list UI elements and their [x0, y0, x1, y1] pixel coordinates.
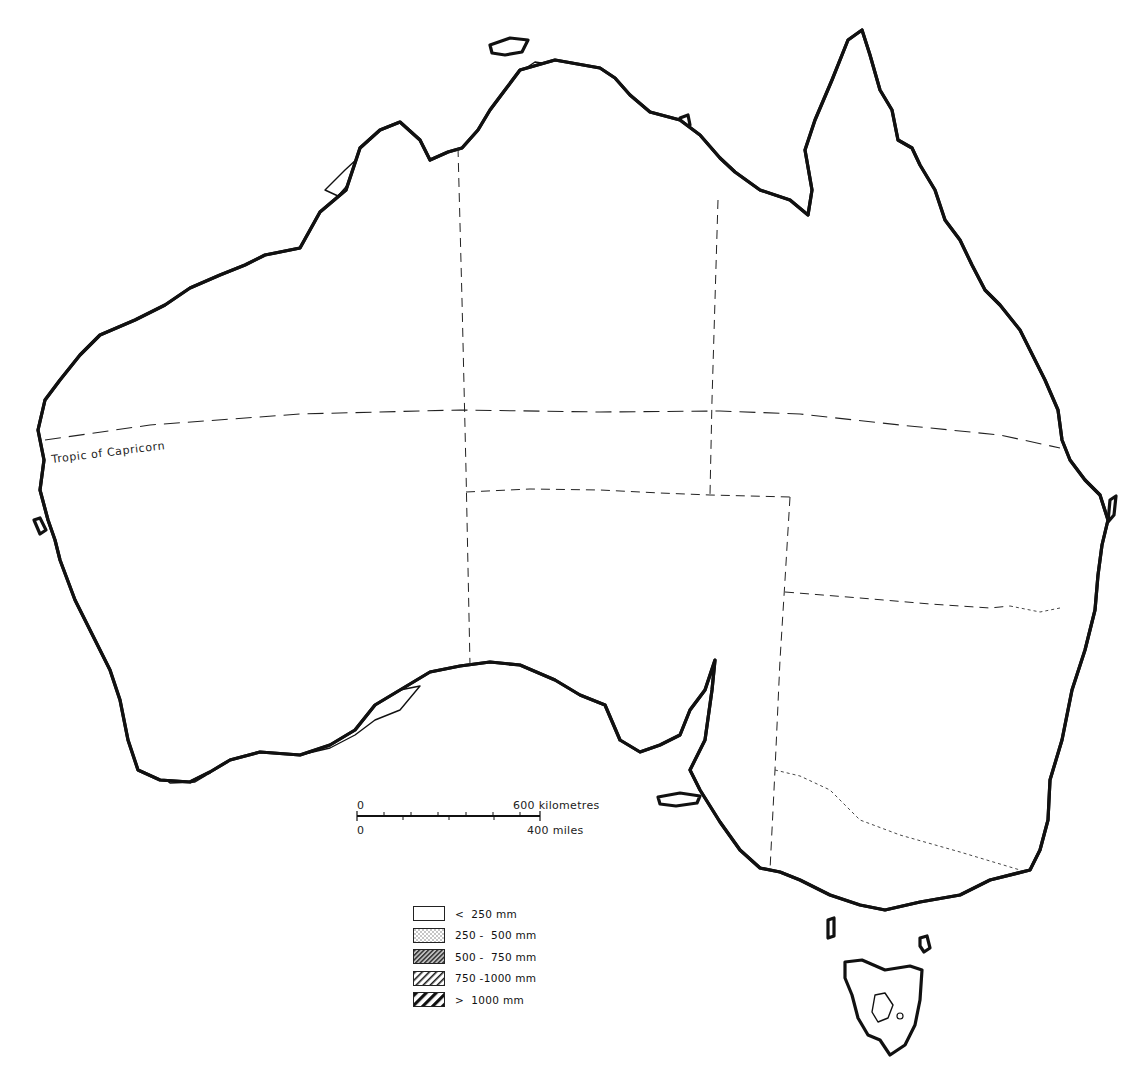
fraser-island: [1108, 496, 1116, 522]
legend-item-under-250: < 250 mm: [413, 903, 537, 925]
legend-label: 250 - 500 mm: [455, 929, 537, 941]
tasmania-lake: [897, 1013, 903, 1019]
scale-bar: 0 600 kilometres 0 400 miles: [357, 799, 599, 837]
king-island: [828, 918, 834, 938]
legend-label: 750 -1000 mm: [455, 972, 536, 984]
tiwi-islands: [490, 38, 528, 55]
scale-mi-start: 0: [357, 824, 364, 837]
swatch-dense-hatch-icon: [413, 949, 445, 964]
scale-mi-end: 400 miles: [527, 824, 584, 837]
scale-km-end: 600 kilometres: [513, 799, 599, 812]
legend-item-250-500: 250 - 500 mm: [413, 925, 537, 947]
legend-item-over-1000: > 1000 mm: [413, 989, 537, 1011]
scale-km-start: 0: [357, 799, 364, 812]
shark-bay-islands: [34, 518, 46, 534]
swatch-dots-icon: [413, 928, 445, 943]
legend: < 250 mm 250 - 500 mm 500 - 750 mm 750 -…: [413, 903, 537, 1011]
swatch-bold-hatch-icon: [413, 992, 445, 1007]
flinders-island: [920, 936, 930, 952]
swatch-medium-hatch-icon: [413, 971, 445, 986]
legend-label: > 1000 mm: [455, 994, 524, 1006]
tasmania: [845, 960, 922, 1055]
swatch-blank-icon: [413, 906, 445, 921]
legend-label: 500 - 750 mm: [455, 951, 537, 963]
rainfall-map: Tropic of Capricorn 0 600 kilometres 0 4…: [0, 0, 1147, 1077]
legend-label: < 250 mm: [455, 908, 517, 920]
tasmania-central-dry: [872, 993, 893, 1022]
legend-item-750-1000: 750 -1000 mm: [413, 968, 537, 990]
legend-item-500-750: 500 - 750 mm: [413, 946, 537, 968]
kangaroo-island: [658, 793, 700, 806]
